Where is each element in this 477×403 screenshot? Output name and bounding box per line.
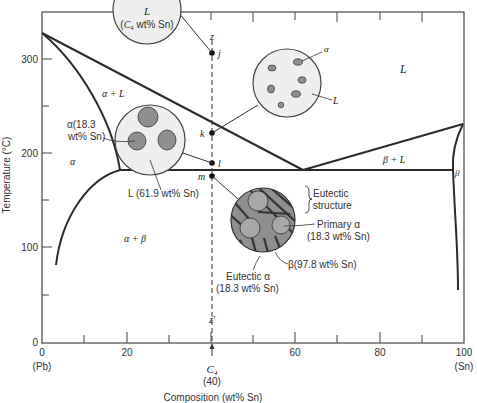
y-axis-label: Temperature (°C) <box>1 137 12 214</box>
x-right-end-label: (Sn) <box>455 361 474 372</box>
x-tick-100: 100 <box>456 347 473 358</box>
solvus-beta <box>453 124 463 290</box>
label-k: k <box>200 128 205 139</box>
region-alpha: α <box>70 156 76 167</box>
x-axis-label: Composition (wt% Sn) <box>164 392 263 403</box>
micro-l-liquid-label: L (61.9 wt% Sn) <box>128 188 199 199</box>
region-liquid: L <box>399 62 407 76</box>
microstructure-m: Eutectic structure Primary α (18.3 wt% S… <box>212 176 370 294</box>
micro-j-composition: (C4 wt% Sn) <box>120 19 173 31</box>
x-tick-20: 20 <box>121 347 133 358</box>
x-tick-60: 60 <box>289 347 301 358</box>
micro-l-alpha-label-2: wt% Sn) <box>67 131 105 142</box>
micro-m-eutectic-structure-1: Eutectic <box>313 188 349 199</box>
y-tick-0: 0 <box>32 337 38 348</box>
micro-m-beta-label: β(97.8 wt% Sn) <box>288 259 357 270</box>
microstructure-j: L (C4 wt% Sn) <box>113 0 212 53</box>
label-z-prime: z′ <box>208 314 216 325</box>
x-tick-80: 80 <box>374 347 386 358</box>
c4-label: C4 <box>207 363 218 377</box>
solvus-alpha <box>56 170 120 265</box>
micro-m-primary-alpha-2: (18.3 wt% Sn) <box>307 231 370 242</box>
micro-m-eutectic-alpha-2: (18.3 wt% Sn) <box>216 283 279 294</box>
c4-marker: C4 (40) <box>203 343 221 387</box>
y-ticks <box>42 59 52 295</box>
microstructure-k: α L <box>212 44 339 133</box>
region-beta: β <box>454 168 460 178</box>
micro-l-alpha-label-1: α(18.3 <box>67 119 96 130</box>
x-left-end-label: (Pb) <box>33 361 52 372</box>
phase-diagram: 0 100 200 300 Temperature (°C) 0 20 60 8… <box>0 0 477 403</box>
y-tick-300: 300 <box>21 54 38 65</box>
micro-m-primary-alpha-1: Primary α <box>317 219 360 230</box>
micro-m-eutectic-structure-2: structure <box>313 200 352 211</box>
y-tick-200: 200 <box>21 148 38 159</box>
label-m: m <box>198 171 205 182</box>
micro-k-alpha-label: α <box>324 44 329 54</box>
region-beta-plus-liquid: β + L <box>382 154 406 165</box>
micro-m-eutectic-alpha-1: Eutectic α <box>226 271 270 282</box>
microstructure-l: α(18.3 wt% Sn) L (61.9 wt% Sn) <box>67 105 212 199</box>
y-tick-100: 100 <box>21 242 38 253</box>
micro-k-l-label: L <box>332 95 339 106</box>
region-alpha-plus-beta: α + β <box>124 233 146 244</box>
micro-j-l-label: L <box>143 5 150 17</box>
label-j: j <box>216 48 221 59</box>
c4-value: (40) <box>203 376 221 387</box>
region-alpha-plus-liquid: α + L <box>102 88 125 99</box>
label-z: z <box>209 31 214 42</box>
label-l: l <box>218 158 221 169</box>
x-tick-0: 0 <box>39 347 45 358</box>
